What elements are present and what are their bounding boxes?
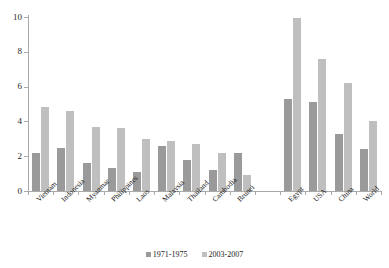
bar [284, 99, 292, 191]
x-axis-tick [205, 191, 206, 195]
x-axis-tick [28, 191, 29, 195]
x-axis-tick [78, 191, 79, 195]
bar [142, 139, 150, 191]
x-axis-tick [53, 191, 54, 195]
y-axis-tick-label-text: 4 [2, 117, 22, 126]
bar [183, 160, 191, 191]
bar [293, 18, 301, 191]
bar [32, 153, 40, 191]
bar [318, 59, 326, 191]
bar [57, 148, 65, 192]
x-axis-tick [129, 191, 130, 195]
plot-area [28, 17, 381, 191]
y-axis-tick-label-text: 0 [2, 187, 22, 196]
x-axis-tick [280, 191, 281, 195]
x-axis-tick [331, 191, 332, 195]
bar [360, 149, 368, 191]
x-axis-tick [154, 191, 155, 195]
bar [344, 83, 352, 191]
x-axis-tick [230, 191, 231, 195]
x-axis-tick [104, 191, 105, 195]
bar [83, 163, 91, 191]
legend-label: 1971-1975 [153, 250, 188, 259]
y-axis-tick-label-text: 6 [2, 82, 22, 91]
y-axis-tick-label-text: 2 [2, 152, 22, 161]
y-axis-tick-label-text: 10 [2, 13, 22, 22]
y-axis-tick-label: 0 [0, 187, 22, 196]
y-axis-tick-label: 4 [0, 117, 22, 126]
legend-item: 1971-1975 [146, 249, 188, 259]
bar [309, 102, 317, 191]
bar [335, 134, 343, 191]
bar [41, 107, 49, 191]
legend-swatch-icon [146, 252, 151, 257]
y-axis-tick-label-text: 8 [2, 47, 22, 56]
chart-legend: 1971-19752003-2007 [0, 249, 389, 259]
legend-swatch-icon [202, 252, 207, 257]
legend-label: 2003-2007 [209, 250, 244, 259]
y-axis-tick-label: 2 [0, 152, 22, 161]
bar [369, 121, 377, 191]
y-axis-tick-label: 8 [0, 47, 22, 56]
y-axis-tick-label: 10 [0, 13, 22, 22]
x-axis-tick [381, 191, 382, 195]
bar-chart: 0246810 VietnamIndonesiaMyanmarPhilippin… [0, 0, 389, 268]
legend-item: 2003-2007 [202, 249, 244, 259]
y-axis-tick-label: 6 [0, 82, 22, 91]
x-axis-tick [305, 191, 306, 195]
bar [158, 146, 166, 191]
bar [209, 170, 217, 191]
x-axis-tick [255, 191, 256, 195]
x-axis-tick [179, 191, 180, 195]
x-axis-tick [356, 191, 357, 195]
bar [66, 111, 74, 191]
